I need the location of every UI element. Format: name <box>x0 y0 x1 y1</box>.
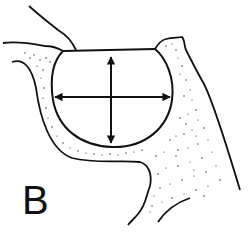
cavity-top-rim <box>63 49 155 51</box>
upper-soft-tissue-line <box>29 6 76 50</box>
lower-right-contour <box>158 198 190 222</box>
anatomical-figure: B <box>0 0 249 235</box>
panel-label: B <box>22 180 49 220</box>
left-bone-outer-contour <box>3 42 63 51</box>
cavity-wall <box>52 49 173 147</box>
